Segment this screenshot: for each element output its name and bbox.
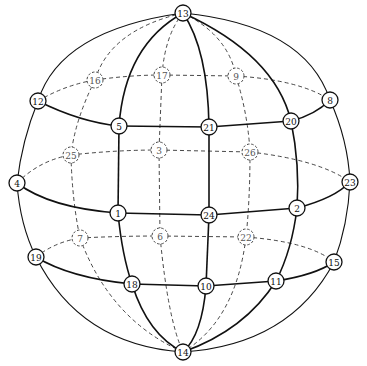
hidden-edge [250,152,350,182]
visible-edge [118,213,132,284]
vertex-label: 1 [115,209,121,219]
vertex-label: 15 [328,258,340,268]
vertex-24: 24 [201,207,217,223]
vertex-label: 9 [233,72,239,82]
vertex-label: 8 [327,96,333,106]
hidden-vertex-22: 22 [238,229,254,245]
vertex-12: 12 [30,93,46,109]
sphere-outline-edge [17,183,36,257]
vertex-label: 5 [116,122,122,132]
vertex-label: 3 [156,146,162,156]
vertex-label: 11 [270,277,281,287]
hidden-edge [246,237,334,262]
vertex-label: 17 [156,71,168,81]
visible-edge [38,101,119,126]
vertex-15: 15 [326,254,342,270]
visible-edge [36,257,132,284]
visible-edge [118,213,209,215]
sphere-outline-edge [36,257,183,352]
vertex-14: 14 [175,344,191,360]
visible-edge [183,13,291,121]
hidden-vertex-9: 9 [228,68,244,84]
hidden-edge [183,237,246,352]
hidden-vertex-26: 26 [242,144,258,160]
vertex-label: 22 [240,233,251,243]
vertex-label: 21 [203,123,214,133]
vertex-10: 10 [198,278,214,294]
visible-edge [132,284,206,286]
hidden-edge [236,76,330,100]
visible-edge [132,284,183,352]
visible-edge [276,262,334,281]
hidden-vertex-16: 16 [87,72,103,88]
hidden-edge [160,236,183,352]
visible-edge [276,208,297,281]
vertex-label: 2 [294,204,300,214]
hidden-vertex-25: 25 [63,147,79,163]
vertex-label: 19 [30,253,42,263]
hidden-vertex-7: 7 [72,230,88,246]
hidden-edge [246,152,250,237]
hidden-edge [159,75,162,150]
vertex-label: 26 [244,148,256,158]
vertex-label: 18 [126,280,138,290]
visible-edge [297,182,350,208]
sphere-diagram: 1314128161795212025326423124276221915181… [0,0,367,366]
visible-edge [291,121,298,208]
vertex-label: 14 [177,348,189,358]
front-edges [17,13,350,352]
hidden-edge [95,13,183,80]
vertex-label: 23 [344,178,356,188]
vertex-label: 12 [32,97,43,107]
vertex-label: 16 [89,76,101,86]
visible-edge [183,286,206,352]
vertex-23: 23 [342,174,358,190]
vertex-1: 1 [110,205,126,221]
sphere-outline-edge [330,100,350,182]
visible-edge [119,13,183,126]
vertex-4: 4 [9,175,25,191]
vertex-label: 20 [285,117,297,127]
hidden-edge [71,80,95,155]
hidden-edge [183,13,236,76]
sphere-outline-edge [334,182,350,262]
hidden-edge [236,76,250,152]
hidden-vertex-6: 6 [152,228,168,244]
vertex-label: 4 [14,179,20,189]
sphere-outline-edge [38,13,183,101]
visible-edge [118,126,119,213]
vertex-label: 24 [203,211,215,221]
vertex-label: 6 [157,232,163,242]
vertex-label: 7 [77,234,83,244]
vertex-2: 2 [289,200,305,216]
vertex-13: 13 [175,5,191,21]
hidden-edge [159,150,160,236]
vertex-label: 25 [65,151,77,161]
visible-edge [209,208,297,215]
vertex-21: 21 [201,119,217,135]
hidden-edge [80,236,160,238]
hidden-edge [71,150,159,155]
hidden-edge [38,80,95,101]
visible-edge [183,13,209,127]
vertices: 1314128161795212025326423124276221915181… [9,5,358,360]
vertex-8: 8 [322,92,338,108]
hidden-edge [162,13,183,75]
visible-edge [17,183,118,213]
hidden-vertex-3: 3 [151,142,167,158]
hidden-edge [162,75,236,76]
visible-edge [206,215,209,286]
hidden-edge [160,236,246,237]
visible-edge [209,121,291,127]
visible-edge [183,281,276,352]
vertex-19: 19 [28,249,44,265]
vertex-label: 13 [177,9,189,19]
visible-edge [206,281,276,286]
hidden-edge [71,155,80,238]
vertex-5: 5 [111,118,127,134]
vertex-20: 20 [283,113,299,129]
hidden-edge [159,150,250,152]
visible-edge [119,126,209,127]
hidden-edge [17,155,71,183]
vertex-11: 11 [268,273,284,289]
